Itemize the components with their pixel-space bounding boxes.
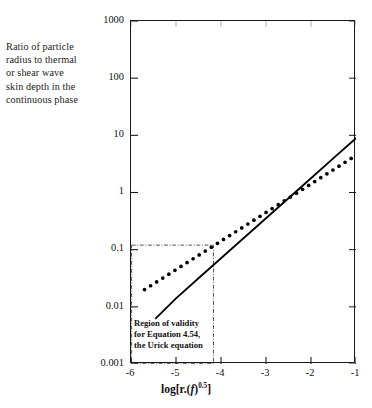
series-dot — [222, 238, 226, 242]
x-axis-title: log[r.(f)0.5] — [0, 382, 372, 396]
x-tick-label: -4 — [205, 368, 235, 378]
series-dot — [325, 172, 329, 176]
series-dot — [258, 214, 262, 218]
series-dot — [234, 230, 238, 234]
series-dot — [197, 253, 201, 257]
series-dot — [179, 265, 183, 269]
series-dot — [228, 234, 232, 238]
figure-root: Ratio of particle radius to thermal or s… — [0, 0, 372, 408]
series-dot — [149, 284, 153, 288]
series-dot — [185, 261, 189, 265]
series-dot — [337, 164, 341, 168]
x-tick-label: -1 — [340, 368, 370, 378]
x-axis-title-exponent: 0.5 — [198, 382, 207, 390]
series-dot — [167, 272, 171, 276]
x-tick-label: -6 — [115, 368, 145, 378]
annotation-line: Region of validity — [134, 318, 210, 329]
plot-area — [130, 20, 355, 363]
series-dot — [210, 245, 214, 249]
y-tick-label: 1 — [78, 186, 124, 196]
y-axis-caption-line: continuous phase — [6, 93, 110, 106]
y-tick-label: 1000 — [78, 15, 124, 25]
series-dot — [216, 241, 220, 245]
series-dot — [252, 218, 256, 222]
y-axis-caption-line: Ratio of particle — [6, 40, 110, 53]
series-dot — [191, 257, 195, 261]
series-dot — [349, 157, 353, 161]
y-tick-label: 0.01 — [78, 301, 124, 311]
x-tick-label: -2 — [295, 368, 325, 378]
series-dot — [264, 211, 268, 215]
series-dot — [161, 276, 165, 280]
y-tick-label: 100 — [78, 72, 124, 82]
series-dot — [155, 280, 159, 284]
y-tick-label: 0.1 — [78, 243, 124, 253]
x-tick-label: -3 — [250, 368, 280, 378]
series-dot — [203, 249, 207, 253]
series-dot — [331, 168, 335, 172]
series-dot — [270, 207, 274, 211]
series-dot — [240, 226, 244, 230]
annotation-line: for Equation 4.54, — [134, 329, 210, 340]
series-dot — [307, 184, 311, 188]
series-dot — [343, 160, 347, 164]
series-dot — [313, 180, 317, 184]
y-tick-label: 10 — [78, 129, 124, 139]
x-axis-title-suffix: ] — [207, 383, 211, 396]
series-dot — [143, 288, 147, 292]
region-of-validity-annotation: Region of validity for Equation 4.54, th… — [134, 318, 210, 352]
series-dot — [319, 176, 323, 180]
series-dot — [173, 268, 177, 272]
annotation-line: the Urick equation — [134, 340, 210, 351]
series-line — [156, 138, 356, 318]
series-dot — [246, 222, 250, 226]
x-axis-title-prefix: log[r.( — [161, 383, 191, 396]
x-tick-label: -5 — [160, 368, 190, 378]
y-tick-label: 0.001 — [78, 358, 124, 368]
y-axis-caption-line: radius to thermal — [6, 53, 110, 66]
plot-canvas — [131, 21, 356, 364]
